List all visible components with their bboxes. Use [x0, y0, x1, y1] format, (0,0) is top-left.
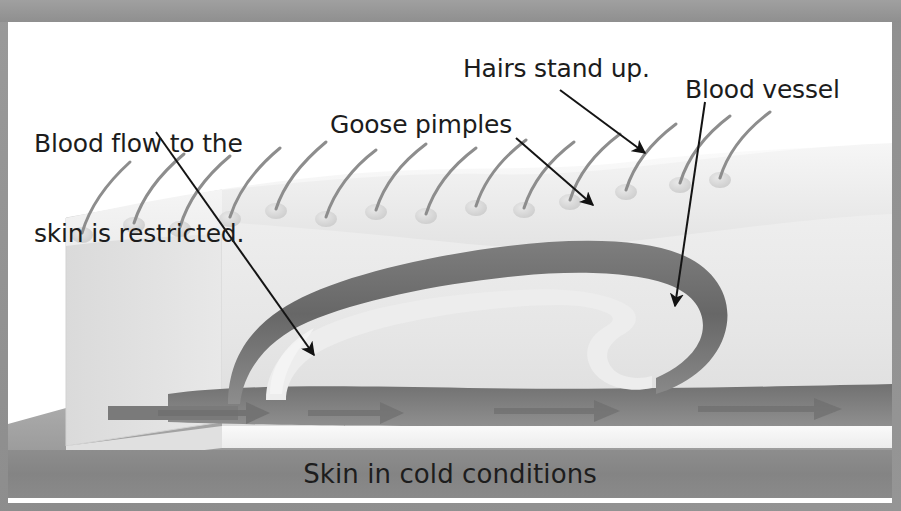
caption-text: Skin in cold conditions — [303, 459, 597, 489]
label-blood-flow-line2: skin is restricted. — [34, 219, 244, 249]
figure-root: Blood flow to the skin is restricted. Go… — [0, 0, 901, 511]
blood-vessel-trunk — [108, 384, 892, 426]
label-hairs-stand-up: Hairs stand up. — [463, 54, 650, 84]
label-blood-flow-line1: Blood flow to the — [34, 129, 244, 159]
diagram-card: Blood flow to the skin is restricted. Go… — [8, 22, 892, 503]
figure-top-border — [0, 0, 901, 22]
label-goose-pimples: Goose pimples — [330, 110, 512, 140]
label-blood-vessel: Blood vessel — [685, 75, 840, 105]
caption-band: Skin in cold conditions — [8, 450, 892, 498]
label-blood-flow: Blood flow to the skin is restricted. — [34, 69, 244, 309]
